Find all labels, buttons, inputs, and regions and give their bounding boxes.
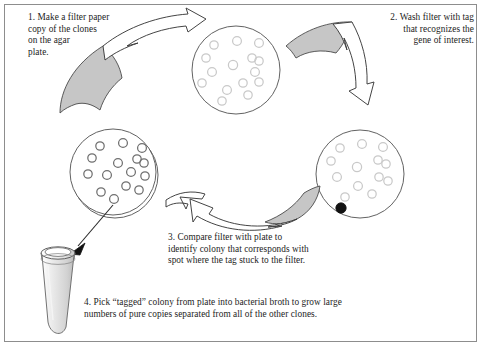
colony-hybridization-figure: 1. Make a filter paper copy of the clone… — [0, 0, 483, 348]
culture-tube — [41, 247, 75, 334]
arrow-step-4 — [70, 205, 113, 255]
dish-agar-plate-left — [70, 129, 158, 218]
step-3-caption: 3. Compare filter with plate to identify… — [168, 232, 368, 267]
dish-filter-tagged-right — [316, 130, 404, 218]
tagged-spot — [336, 203, 346, 213]
arrow-step-3 — [166, 192, 297, 230]
step-1-caption: 1. Make a filter paper copy of the clone… — [28, 12, 158, 58]
filter-wedge-bottom — [265, 186, 320, 224]
step-2-caption: 2. Wash filter with tag that recognizes … — [352, 12, 474, 47]
dish-filter-copy-top — [192, 26, 280, 114]
step-4-caption: 4. Pick “tagged” colony from plate into … — [84, 297, 404, 320]
